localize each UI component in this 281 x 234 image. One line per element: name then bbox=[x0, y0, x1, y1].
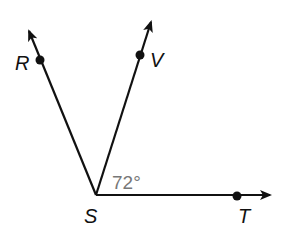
point-t bbox=[233, 192, 242, 201]
angle-measure-label: 72° bbox=[112, 172, 141, 193]
point-r bbox=[36, 56, 45, 65]
angle-diagram: R V S T 72° bbox=[0, 0, 281, 234]
ray-sv bbox=[96, 22, 151, 195]
point-v bbox=[136, 51, 145, 60]
label-t: T bbox=[238, 205, 252, 227]
label-s: S bbox=[84, 205, 98, 227]
ray-sr bbox=[29, 31, 96, 195]
label-v: V bbox=[150, 49, 165, 71]
label-r: R bbox=[15, 52, 29, 74]
